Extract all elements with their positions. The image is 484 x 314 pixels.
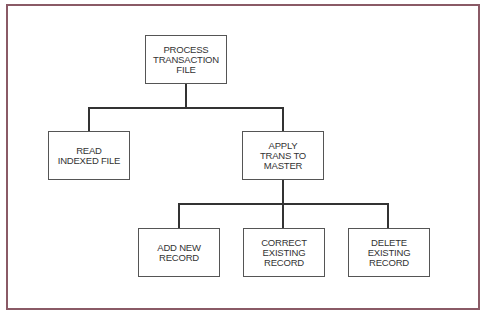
node-correct-existing-record: CORRECT EXISTING RECORD: [243, 228, 325, 277]
node-add-new-record: ADD NEW RECORD: [138, 228, 220, 277]
connector-level1-horizontal: [88, 107, 284, 109]
connector-to-read: [88, 107, 90, 131]
connector-root-down: [185, 83, 187, 108]
connector-to-delete: [387, 203, 389, 228]
connector-to-apply: [282, 107, 284, 131]
node-apply-trans-to-master: APPLY TRANS TO MASTER: [242, 131, 324, 180]
node-read-indexed-file: READ INDEXED FILE: [48, 131, 130, 180]
node-process-transaction-file: PROCESS TRANSACTION FILE: [145, 35, 227, 84]
connector-to-add: [178, 203, 180, 228]
node-delete-existing-record: DELETE EXISTING RECORD: [348, 228, 430, 277]
connector-apply-down: [282, 180, 284, 204]
connector-to-correct: [282, 203, 284, 228]
